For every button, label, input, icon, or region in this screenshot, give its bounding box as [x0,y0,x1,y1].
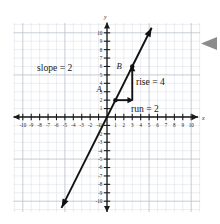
x-tick-label: -6 [54,122,59,128]
x-tick-label: -4 [71,122,76,128]
x-tick-label: -7 [46,122,51,128]
x-tick-label: -8 [38,122,43,128]
y-tick-label: 2 [100,97,103,103]
y-tick-label: -3 [98,139,103,145]
x-axis-label: x [201,115,205,121]
x-tick-label: 1 [114,122,117,128]
y-tick-label: 6 [100,63,103,69]
y-axis-label: y [103,14,107,20]
graph-screenshot: -10-9-8-7-6-5-4-3-2-112345678910-10-9-8-… [0,0,220,224]
y-tick-label: 8 [100,47,103,53]
x-tick-label: 6 [156,122,159,128]
y-tick-label: -8 [98,181,103,187]
x-tick-label: -2 [88,122,93,128]
x-tick-label: -3 [80,122,85,128]
slope-annotation: slope = 2 [37,62,72,73]
plot-point-a [113,98,117,102]
y-tick-label: 1 [100,105,103,111]
x-tick-label: 2 [123,122,126,128]
y-tick-label: -5 [98,156,103,162]
x-tick-label: 10 [189,122,195,128]
y-tick-label: -7 [98,173,103,179]
x-tick-label: 9 [182,122,185,128]
rise-annotation: rise = 4 [136,76,165,87]
coordinate-plane-svg: -10-9-8-7-6-5-4-3-2-112345678910-10-9-8-… [0,0,220,224]
y-tick-label: -4 [98,148,103,154]
y-tick-label: -6 [98,164,103,170]
y-tick-label: -9 [98,190,103,196]
point-a-label: A [96,84,103,94]
coordinate-plane-figure: -10-9-8-7-6-5-4-3-2-112345678910-10-9-8-… [0,0,220,224]
x-tick-label: -10 [19,122,26,128]
x-tick-label: -5 [63,122,68,128]
y-tick-label: 7 [100,55,103,61]
y-tick-label: 5 [100,72,103,78]
x-tick-label: 3 [131,122,134,128]
x-tick-label: 7 [165,122,168,128]
x-tick-label: -9 [29,122,34,128]
y-tick-label: 9 [100,38,103,44]
run-annotation: run = 2 [131,103,159,114]
point-b-label: B [117,61,123,71]
plot-point-b [130,64,134,68]
x-tick-label: 8 [173,122,176,128]
x-tick-label: 4 [139,122,142,128]
y-tick-label: -10 [96,198,103,204]
y-tick-label: 10 [97,30,103,36]
